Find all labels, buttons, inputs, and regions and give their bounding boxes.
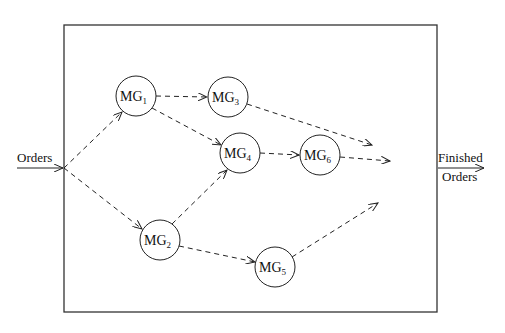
node-label-mg3: MG	[212, 90, 235, 105]
node-sub-mg2: 2	[167, 240, 172, 250]
edge-mg1-mg4	[152, 108, 221, 145]
node-mg1: MG1	[116, 76, 156, 116]
edge-input-mg1	[64, 112, 122, 168]
node-mg6: MG6	[300, 135, 340, 175]
node-label-mg1: MG	[120, 89, 143, 104]
node-label-mg5: MG	[259, 260, 282, 275]
node-mg5: MG5	[255, 247, 295, 287]
output-label-top: Finished	[438, 150, 483, 165]
node-sub-mg4: 4	[247, 153, 252, 163]
node-sub-mg6: 6	[327, 155, 332, 165]
production-flow-diagram: Orders Finished Orders MG1 MG2 MG3 MG4 M…	[0, 0, 505, 333]
edge-mg1-mg3	[156, 96, 207, 97]
node-sub-mg3: 3	[235, 97, 240, 107]
node-label-mg6: MG	[304, 148, 327, 163]
edge-mg5-output	[292, 203, 378, 257]
input-label: Orders	[17, 150, 52, 165]
edge-mg2-mg4	[172, 170, 227, 224]
edge-mg4-mg6	[260, 153, 299, 155]
node-label-mg4: MG	[224, 146, 247, 161]
edge-mg6-output	[340, 157, 390, 161]
node-mg4: MG4	[220, 133, 260, 173]
node-mg2: MG2	[140, 220, 180, 260]
edge-mg2-mg5	[179, 246, 255, 262]
node-sub-mg5: 5	[282, 267, 287, 277]
node-label-mg2: MG	[144, 233, 167, 248]
edge-input-mg2	[64, 168, 142, 229]
output-label-bottom: Orders	[442, 169, 477, 184]
node-sub-mg1: 1	[143, 96, 148, 106]
node-mg3: MG3	[208, 77, 248, 117]
